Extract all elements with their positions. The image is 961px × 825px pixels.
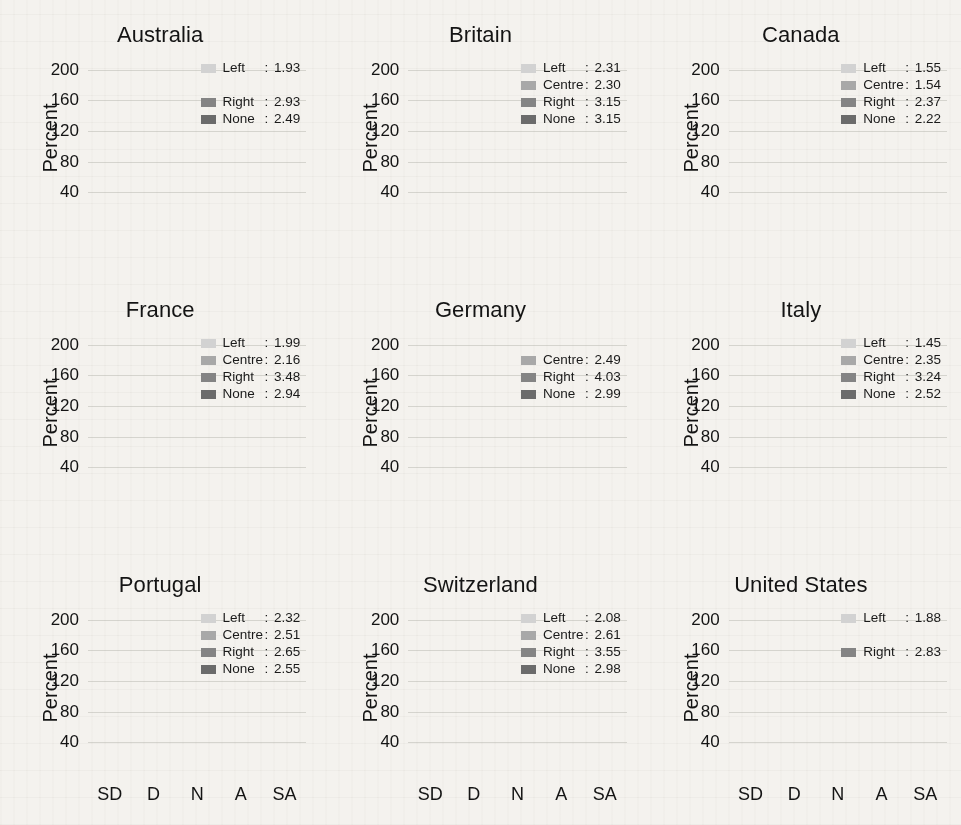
legend-label: Centre — [543, 351, 585, 369]
y-axis-tick-label: 40 — [380, 182, 399, 202]
legend-label: None — [863, 110, 905, 128]
y-axis-tick-label: 120 — [371, 671, 399, 691]
legend-item-left[interactable]: Left:2.31 — [521, 60, 621, 77]
legend-item-centre[interactable]: Centre:2.49 — [521, 352, 621, 369]
bar-slot-d — [452, 333, 496, 498]
legend-item-none[interactable]: None:2.22 — [841, 111, 941, 128]
legend-item-right[interactable]: Right:3.24 — [841, 369, 941, 386]
bar-slot-sd: SD — [408, 608, 452, 773]
legend-item-centre[interactable]: Centre:1.54 — [841, 77, 941, 94]
legend: xxCentre:2.49Right:4.03None:2.99 — [521, 335, 621, 403]
legend-value: 2.31 — [589, 59, 621, 77]
legend-value: 2.52 — [909, 385, 941, 403]
legend-item-centre[interactable]: Centre:2.30 — [521, 77, 621, 94]
legend-swatch-left-icon — [841, 64, 856, 73]
bar-slot-d — [132, 333, 176, 498]
legend-item-left[interactable]: Left:1.88 — [841, 610, 941, 627]
x-axis-tick-label: SD — [97, 784, 122, 805]
panel-title: Canada — [641, 22, 961, 48]
legend-item-left[interactable]: Left:1.99 — [201, 335, 301, 352]
legend-item-left[interactable]: Left:2.32 — [201, 610, 301, 627]
legend: Left:1.93xxRight:2.93None:2.49 — [201, 60, 301, 128]
legend-item-none[interactable]: None:2.98 — [521, 661, 621, 678]
legend-item-none[interactable]: None:2.99 — [521, 386, 621, 403]
x-axis-tick-label: SA — [913, 784, 937, 805]
legend-label: Centre — [223, 351, 265, 369]
legend-value: 1.54 — [909, 76, 941, 94]
legend-item-none[interactable]: None:3.15 — [521, 111, 621, 128]
y-axis-tick-label: 160 — [371, 640, 399, 660]
legend-label: None — [863, 385, 905, 403]
legend-item-none[interactable]: None:2.52 — [841, 386, 941, 403]
legend-swatch-right-icon — [521, 98, 536, 107]
x-axis-tick-label: N — [191, 784, 204, 805]
legend-item-left[interactable]: Left:1.93 — [201, 60, 301, 77]
plot-area: 4080120160200Left:1.99Centre:2.16Right:3… — [88, 333, 306, 498]
legend-item-left[interactable]: Left:1.55 — [841, 60, 941, 77]
legend-value: 2.49 — [268, 110, 300, 128]
y-axis-tick-label: 160 — [371, 90, 399, 110]
chart-panel-canada: CanadaPercent4080120160200Left:1.55Centr… — [641, 0, 961, 275]
legend-label: Centre — [543, 76, 585, 94]
legend-swatch-none-icon — [521, 390, 536, 399]
bar-slot-d: D — [772, 608, 816, 773]
legend-value: 1.99 — [268, 334, 300, 352]
legend-item-centre[interactable]: Centre:2.16 — [201, 352, 301, 369]
legend-item-right[interactable]: Right:3.15 — [521, 94, 621, 111]
legend-swatch-centre-icon — [201, 356, 216, 365]
legend-item-right[interactable]: Right:2.93 — [201, 94, 301, 111]
bar-slot-sd — [408, 333, 452, 498]
legend-item-right[interactable]: Right:2.37 — [841, 94, 941, 111]
legend-item-left[interactable]: Left:2.08 — [521, 610, 621, 627]
bar-slot-d: D — [132, 608, 176, 773]
legend-swatch-none-icon — [201, 115, 216, 124]
legend-swatch-centre-icon — [201, 631, 216, 640]
legend-label: Centre — [223, 626, 265, 644]
legend-swatch-centre-icon — [841, 356, 856, 365]
y-axis-tick-label: 160 — [691, 640, 719, 660]
legend-item-none[interactable]: None:2.55 — [201, 661, 301, 678]
legend-item-right[interactable]: Right:3.48 — [201, 369, 301, 386]
x-axis-tick-label: SD — [418, 784, 443, 805]
legend-value: 1.88 — [909, 609, 941, 627]
legend-item-centre[interactable]: Centre:2.61 — [521, 627, 621, 644]
legend-label: Left — [863, 59, 905, 77]
plot-area: 4080120160200SDDNASALeft:1.88xxRight:2.8… — [729, 608, 947, 773]
chart-panel-france: FrancePercent4080120160200Left:1.99Centr… — [0, 275, 320, 550]
legend-label: None — [223, 110, 265, 128]
y-axis-tick-label: 120 — [371, 396, 399, 416]
y-axis-tick-label: 40 — [60, 182, 79, 202]
legend-item-none[interactable]: None:2.49 — [201, 111, 301, 128]
legend-item-right[interactable]: Right:3.55 — [521, 644, 621, 661]
legend-value: 2.08 — [589, 609, 621, 627]
y-axis-tick-label: 80 — [380, 427, 399, 447]
legend-item-right[interactable]: Right:2.83 — [841, 644, 941, 661]
legend-swatch-left-icon — [841, 614, 856, 623]
legend-item-right[interactable]: Right:2.65 — [201, 644, 301, 661]
legend-value: 2.35 — [909, 351, 941, 369]
legend-label: Right — [863, 93, 905, 111]
legend-value: 1.55 — [909, 59, 941, 77]
legend-swatch-right-icon — [201, 373, 216, 382]
bar-slot-sd — [88, 333, 132, 498]
legend-item-none[interactable]: None:2.94 — [201, 386, 301, 403]
legend-item-centre[interactable]: Centre:2.51 — [201, 627, 301, 644]
legend-value: 3.15 — [589, 110, 621, 128]
y-axis-tick-label: 40 — [380, 457, 399, 477]
legend-item-left[interactable]: Left:1.45 — [841, 335, 941, 352]
y-axis-tick-label: 120 — [691, 121, 719, 141]
bar-slot-d: D — [452, 608, 496, 773]
legend-swatch-none-icon — [841, 390, 856, 399]
legend-label: None — [223, 660, 265, 678]
legend-item-right[interactable]: Right:4.03 — [521, 369, 621, 386]
legend-label: Left — [543, 609, 585, 627]
bar-slot-sd — [408, 58, 452, 223]
legend-value: 4.03 — [589, 368, 621, 386]
legend-label: None — [223, 385, 265, 403]
legend-item-centre[interactable]: Centre:2.35 — [841, 352, 941, 369]
panel-title: Switzerland — [320, 572, 640, 598]
x-axis-tick-label: N — [511, 784, 524, 805]
legend-label: Centre — [863, 76, 905, 94]
legend-label: Left — [223, 334, 265, 352]
legend-swatch-centre-icon — [521, 81, 536, 90]
